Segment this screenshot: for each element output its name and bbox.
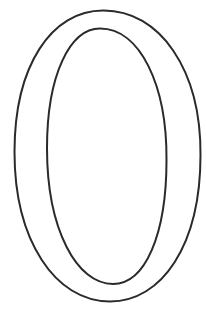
inner-contour [47,29,167,285]
zero-outline-graphic [0,0,206,313]
outer-contour [15,10,201,301]
digit-zero-outline: 0 [0,0,206,313]
